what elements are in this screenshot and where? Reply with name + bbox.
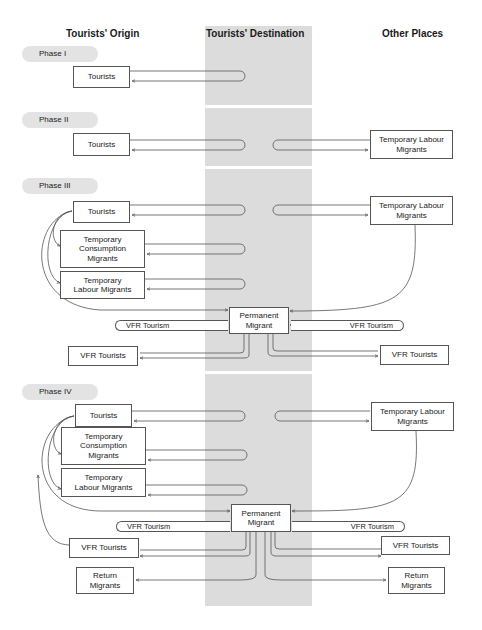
- box-label: Migrants: [87, 254, 118, 264]
- phase-4-return-migrants-origin: ReturnMigrants: [76, 567, 134, 594]
- phase-4-permanent-migrant-box: PermanentMigrant: [231, 504, 291, 532]
- phase-1-label: Phase I: [22, 46, 98, 62]
- box-label: Tourists: [88, 140, 116, 150]
- box-label: Temporary: [84, 276, 122, 286]
- phase-3-vfr-tourism-flow-right: VFR Tourism: [291, 320, 404, 331]
- box-label: Temporary Labour: [380, 407, 445, 417]
- box-label: Migrants: [88, 451, 119, 461]
- phase-3-vfr-tourists-other: VFR Tourists: [380, 345, 449, 365]
- box-label: Temporary Labour: [379, 201, 444, 211]
- box-label: Migrant: [246, 321, 273, 331]
- column-header-destination: Tourists' Destination: [206, 28, 304, 39]
- box-label: Permanent: [241, 509, 280, 519]
- phase-3-label: Phase III: [22, 178, 98, 194]
- box-label: Tourists: [88, 72, 116, 82]
- phase-3-permanent-migrant-box: PermanentMigrant: [229, 307, 289, 334]
- phase-4-tourists-box: Tourists: [75, 404, 132, 427]
- box-label: VFR Tourists: [80, 351, 126, 361]
- phase-3-vfr-tourists-origin: VFR Tourists: [68, 346, 138, 366]
- phase-4-vfr-tourists-origin: VFR Tourists: [69, 538, 139, 558]
- box-label: Migrant: [248, 518, 275, 528]
- box-label: VFR Tourists: [392, 350, 438, 360]
- box-label: Temporary: [85, 432, 123, 442]
- phase-3-temporary-labour-migrants-other: Temporary LabourMigrants: [370, 196, 453, 225]
- box-label: Consumption: [80, 441, 127, 451]
- phase-1-tourists-box: Tourists: [73, 66, 130, 88]
- box-label: Migrants: [396, 145, 427, 155]
- phase-4-temporary-labour-migrants-other: Temporary LabourMigrants: [371, 402, 454, 431]
- phase-4-temporary-labour-migrants-box: TemporaryLabour Migrants: [61, 468, 146, 497]
- box-label: Temporary: [85, 473, 123, 483]
- phase-4-temporary-consumption-migrants-box: TemporaryConsumptionMigrants: [61, 427, 146, 465]
- phase-4-label: Phase IV: [22, 384, 98, 400]
- phase-4-vfr-tourism-flow-right: VFR Tourism: [292, 521, 405, 532]
- box-label: VFR Tourists: [393, 541, 439, 551]
- destination-band-phase-4: [205, 374, 312, 606]
- phase-3-vfr-tourism-flow-left: VFR Tourism: [115, 320, 228, 331]
- phase-4-vfr-tourists-other: VFR Tourists: [381, 536, 450, 555]
- box-label: Tourists: [90, 411, 118, 421]
- phase-3-temporary-labour-migrants-box: TemporaryLabour Migrants: [60, 271, 145, 299]
- phase-2-temporary-labour-migrants-other: Temporary LabourMigrants: [370, 130, 453, 159]
- destination-band-phase-3: [205, 169, 312, 371]
- box-label: Labour Migrants: [75, 483, 133, 493]
- phase-2-tourists-box: Tourists: [73, 133, 130, 156]
- box-label: Consumption: [79, 244, 126, 254]
- column-header-origin: Tourists' Origin: [66, 28, 139, 39]
- phase-3-temporary-consumption-migrants-box: TemporaryConsumptionMigrants: [60, 230, 145, 268]
- box-label: Migrants: [396, 211, 427, 221]
- box-label: Return: [93, 571, 117, 581]
- box-label: Migrants: [397, 417, 428, 427]
- phase-3-tourists-box: Tourists: [73, 201, 130, 223]
- phase-4-return-migrants-other: ReturnMigrants: [388, 567, 445, 594]
- column-header-other: Other Places: [382, 28, 443, 39]
- box-label: Migrants: [401, 581, 432, 591]
- box-label: Permanent: [239, 311, 278, 321]
- destination-band-phase-2: [205, 108, 312, 166]
- box-label: Temporary Labour: [379, 135, 444, 145]
- box-label: Labour Migrants: [74, 285, 132, 295]
- phase-4-vfr-tourism-flow-left: VFR Tourism: [116, 521, 230, 532]
- box-label: VFR Tourists: [81, 543, 127, 553]
- phase-2-label: Phase II: [22, 112, 98, 128]
- box-label: Tourists: [88, 207, 116, 217]
- box-label: Temporary: [84, 235, 122, 245]
- box-label: Return: [404, 571, 428, 581]
- box-label: Migrants: [90, 581, 121, 591]
